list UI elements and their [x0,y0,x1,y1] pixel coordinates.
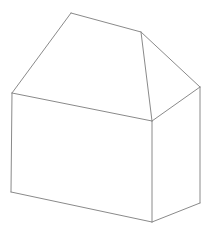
house-wireframe-svg [0,0,212,235]
house-wireframe-canvas [0,0,212,235]
